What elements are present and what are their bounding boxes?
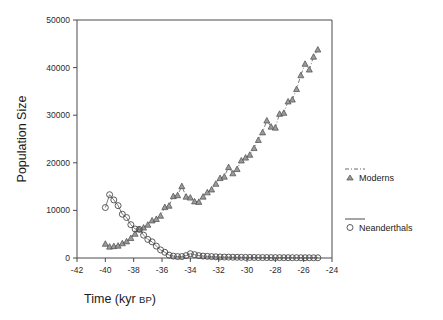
data-point-moderns <box>311 54 317 60</box>
data-point-moderns <box>166 203 172 209</box>
data-point-moderns <box>289 96 295 102</box>
y-axis-tick-label: 10000 <box>46 205 70 215</box>
x-axis-tick-label: -40 <box>99 265 112 275</box>
x-axis-tick-label: -38 <box>128 265 141 275</box>
x-axis-tick-label: -32 <box>213 265 226 275</box>
legend-marker-moderns <box>347 175 353 180</box>
data-point-moderns <box>179 183 185 189</box>
data-point-moderns <box>260 129 266 135</box>
data-point-moderns <box>264 117 270 123</box>
data-point-moderns <box>209 186 215 192</box>
x-axis-tick-label: -26 <box>298 265 311 275</box>
y-axis-title: Population Size <box>15 96 29 183</box>
data-point-moderns <box>302 61 308 67</box>
data-point-moderns <box>315 47 321 53</box>
y-axis-tick-label: 50000 <box>46 15 70 25</box>
y-axis-tick-label: 30000 <box>46 110 70 120</box>
data-point-moderns <box>247 152 253 158</box>
x-axis-tick-label: -28 <box>269 265 282 275</box>
data-point-moderns <box>175 192 181 198</box>
data-point-moderns <box>281 110 287 116</box>
data-point-moderns <box>221 174 227 180</box>
legend-marker-neanderthals <box>347 225 353 231</box>
x-axis-title: Time (kyr BP) <box>84 292 156 306</box>
data-point-moderns <box>102 241 108 247</box>
y-axis-tick-label: 20000 <box>46 158 70 168</box>
x-axis-tick-label: -24 <box>326 265 339 275</box>
plot-frame <box>77 20 332 258</box>
x-axis-tick-label: -42 <box>71 265 84 275</box>
data-point-moderns <box>251 145 257 151</box>
x-axis-tick-label: -34 <box>184 265 197 275</box>
population-size-chart: 01000020000300004000050000-42-40-38-36-3… <box>0 0 443 320</box>
series-line-moderns <box>105 50 317 247</box>
chart-svg: 01000020000300004000050000-42-40-38-36-3… <box>0 0 443 320</box>
y-axis-tick-label: 0 <box>65 253 70 263</box>
y-axis-tick-label: 40000 <box>46 63 70 73</box>
legend-label-moderns: Moderns <box>359 173 395 183</box>
series-line-neanderthals <box>105 195 317 258</box>
x-axis-tick-label: -30 <box>241 265 254 275</box>
data-point-moderns <box>234 166 240 172</box>
legend-label-neanderthals: Neanderthals <box>359 223 413 233</box>
data-point-moderns <box>158 213 164 219</box>
data-point-moderns <box>255 137 261 143</box>
x-axis-tick-label: -36 <box>156 265 169 275</box>
data-point-moderns <box>298 72 304 78</box>
data-point-moderns <box>226 164 232 170</box>
data-point-moderns <box>294 86 300 92</box>
